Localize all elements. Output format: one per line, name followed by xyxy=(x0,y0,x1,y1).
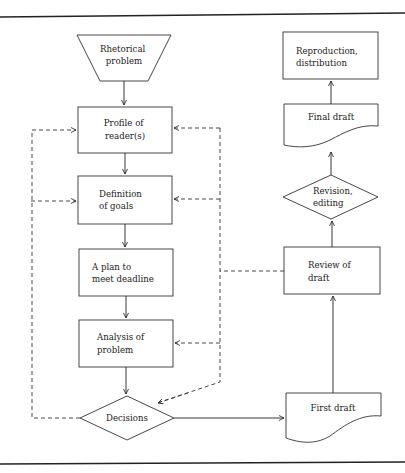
first-draft-label: First draft xyxy=(311,403,356,413)
definition-goals-node xyxy=(78,176,172,224)
profile-readers-node xyxy=(78,107,172,153)
analysis-problem-node xyxy=(79,320,173,367)
bottom-rule xyxy=(0,462,405,464)
final-draft-node xyxy=(284,104,378,147)
revision-editing-node xyxy=(283,175,378,219)
top-rule xyxy=(0,13,405,17)
flowchart-canvas: Rhetorical problem Profile of reader(s) … xyxy=(0,0,405,473)
left-feedback-line xyxy=(32,130,80,418)
right-to-decisions xyxy=(158,393,188,403)
decisions-label: Decisions xyxy=(106,413,148,423)
first-draft-node xyxy=(286,393,381,442)
final-draft-label: Final draft xyxy=(308,112,355,122)
plan-deadline-node xyxy=(79,249,173,296)
review-draft-node xyxy=(284,247,380,294)
